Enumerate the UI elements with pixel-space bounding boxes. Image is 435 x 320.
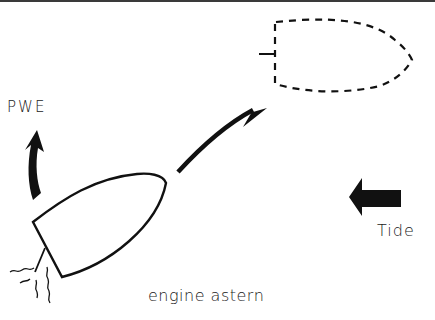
tide-arrow-icon [349, 178, 401, 216]
boat-target-icon [259, 20, 412, 92]
boat-current-icon [33, 174, 166, 277]
caption-label: engine astern [148, 286, 264, 305]
pwe-label: PWE [7, 98, 46, 116]
propeller-wash-icon [10, 267, 50, 303]
tide-label: Tide [377, 221, 415, 240]
movement-arrow-icon [178, 108, 267, 172]
pwe-arrow-icon [25, 130, 44, 200]
diagram-canvas: PWE Tide engine astern [0, 0, 435, 320]
diagram-graphic [0, 0, 435, 320]
